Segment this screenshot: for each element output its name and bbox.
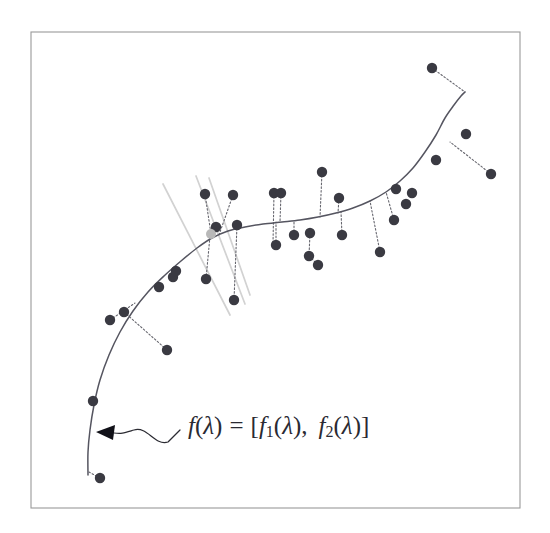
data-point [401, 199, 411, 209]
formula-lambda-1: λ [202, 412, 214, 439]
data-point [154, 282, 164, 292]
formula-sub-1: 1 [266, 423, 274, 440]
formula-close-bracket: ] [361, 412, 369, 439]
data-point [334, 193, 344, 203]
data-point [289, 230, 299, 240]
data-point [337, 230, 347, 240]
figure-root: f(λ)=[f1(λ),f2(λ)] [0, 0, 550, 533]
formula-close-paren: ) [214, 412, 222, 440]
data-point [229, 295, 239, 305]
data-point [304, 251, 314, 261]
data-point [119, 307, 129, 317]
data-point [391, 184, 401, 194]
formula-close-paren-2: ) [293, 412, 301, 440]
data-point [305, 228, 315, 238]
data-point [271, 240, 281, 250]
data-point [201, 274, 211, 284]
data-point [313, 260, 323, 270]
data-point [171, 266, 181, 276]
data-point [389, 215, 399, 225]
data-point [232, 220, 242, 230]
data-point [486, 169, 496, 179]
data-point [431, 155, 441, 165]
data-point [276, 188, 286, 198]
data-point [95, 473, 105, 483]
formula-open-paren-3: ( [334, 412, 342, 440]
data-point [88, 396, 98, 406]
curve-point-highlight [206, 229, 216, 239]
data-point [105, 315, 115, 325]
data-point [375, 247, 385, 257]
data-point [461, 129, 471, 139]
data-point [228, 190, 238, 200]
formula-lambda-3: λ [341, 412, 353, 439]
data-point [200, 189, 210, 199]
formula-close-paren-3: ) [353, 412, 361, 440]
formula-equals: = [229, 412, 243, 439]
data-point [317, 167, 327, 177]
data-point [162, 345, 172, 355]
formula-sub-2: 2 [326, 423, 334, 440]
data-point [407, 188, 417, 198]
formula-open-paren-2: ( [274, 412, 282, 440]
curve-point-highlight-group [206, 229, 216, 239]
formula-label: f(λ)=[f1(λ),f2(λ)] [188, 412, 369, 440]
formula-comma: , [301, 412, 307, 439]
data-point [427, 63, 437, 73]
formula-open-paren: ( [195, 412, 203, 440]
figure-canvas: f(λ)=[f1(λ),f2(λ)] [0, 0, 550, 533]
formula-open-bracket: [ [251, 412, 259, 439]
formula-lambda-2: λ [281, 412, 293, 439]
